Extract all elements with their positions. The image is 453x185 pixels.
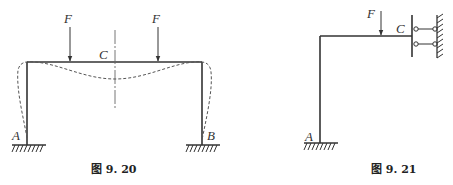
portal-frame bbox=[27, 62, 202, 145]
force-label-right: F bbox=[151, 11, 161, 26]
deflection-curve bbox=[18, 62, 212, 140]
fixed-support-a bbox=[304, 143, 338, 150]
caption-fig-9-20: 图 9. 20 bbox=[91, 163, 137, 176]
fixed-support-b bbox=[186, 145, 220, 152]
diagram-canvas: F F C A B 图 9. 20 F C A bbox=[0, 0, 453, 185]
support-label-b: B bbox=[207, 128, 215, 143]
l-frame bbox=[320, 36, 412, 143]
support-label-a: A bbox=[11, 128, 20, 143]
figure-9-21: F C A 图 9. 21 bbox=[304, 6, 443, 176]
caption-fig-9-21: 图 9. 21 bbox=[371, 163, 416, 176]
force-label-left: F bbox=[63, 11, 73, 26]
force-label: F bbox=[366, 6, 376, 21]
figure-9-20: F F C A B 图 9. 20 bbox=[11, 11, 220, 176]
fixed-support-a bbox=[12, 145, 46, 152]
guided-support-c bbox=[412, 14, 443, 58]
support-label-a: A bbox=[304, 129, 313, 144]
point-label-c: C bbox=[396, 21, 405, 36]
point-label-c: C bbox=[99, 47, 108, 62]
